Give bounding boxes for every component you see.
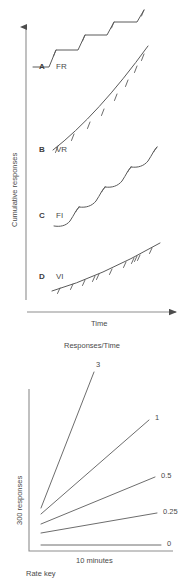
record-letter-a: A (39, 63, 45, 71)
rate-key-x-axis-label: 10 minutes (76, 557, 113, 565)
top-panel-axes (26, 27, 176, 312)
top-panel-y-axis-label: Cumulative responses (11, 153, 19, 227)
rate-key-title: Responses/Time (64, 342, 120, 350)
reinforcement-schedules-figure (0, 0, 190, 579)
figure-caption: Rate key (26, 570, 56, 578)
top-panel-x-axis-label: Time (91, 320, 107, 328)
record-curve-vi (52, 243, 160, 294)
rate-key-axes (29, 389, 173, 551)
record-letter-c: C (39, 212, 45, 220)
rate-label-1: 1 (155, 414, 159, 422)
record-curve-vr (53, 46, 148, 153)
record-letter-d: D (39, 273, 45, 281)
rate-line-3 (41, 372, 94, 508)
rate-key-y-axis-label: 300 responses (16, 476, 24, 525)
record-letter-b: B (39, 146, 45, 154)
rate-line-0-5 (41, 477, 155, 524)
rate-label-3: 3 (96, 361, 100, 369)
record-schedule-fr: FR (56, 63, 67, 71)
rate-key-lines (41, 372, 161, 545)
rate-label-0-5: 0.5 (161, 472, 171, 480)
record-schedule-vr: VR (56, 146, 67, 154)
record-schedule-fi: FI (56, 212, 63, 220)
rate-label-0-25: 0.25 (163, 508, 178, 516)
record-schedule-vi: VI (56, 273, 64, 281)
rate-line-0-25 (41, 513, 157, 533)
rate-label-0: 0 (167, 540, 171, 548)
record-curve-fi (54, 147, 157, 226)
record-curve-fr (33, 10, 144, 67)
